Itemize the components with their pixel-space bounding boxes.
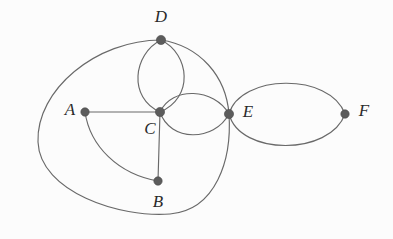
edge-D-C-left[interactable]	[138, 40, 161, 112]
edge-D-C-right[interactable]	[160, 40, 184, 112]
vertex-label-D: D	[154, 7, 168, 26]
edge-C-E-bottom[interactable]	[160, 112, 229, 135]
vertex-dot-E[interactable]	[224, 109, 233, 118]
edge-C-E-top[interactable]	[160, 93, 229, 114]
vertex-dot-D[interactable]	[156, 35, 165, 44]
vertex-dot-B[interactable]	[154, 177, 162, 185]
vertex-label-B: B	[153, 192, 164, 211]
vertex-label-E: E	[242, 102, 254, 121]
vertex-label-C: C	[144, 119, 156, 138]
vertex-label-A: A	[64, 100, 76, 119]
graph-diagram: A B C D E F	[0, 0, 393, 239]
graph-canvas: A B C D E F	[0, 0, 393, 239]
vertex-dot-C[interactable]	[155, 107, 164, 116]
vertex-layer	[81, 35, 349, 185]
vertex-label-F: F	[358, 101, 370, 120]
edge-C-B[interactable]	[158, 112, 160, 181]
edge-layer	[38, 40, 345, 214]
edge-D-E-outer[interactable]	[38, 40, 229, 214]
vertex-dot-F[interactable]	[341, 110, 349, 118]
vertex-dot-A[interactable]	[81, 108, 89, 116]
label-layer: A B C D E F	[64, 7, 370, 211]
